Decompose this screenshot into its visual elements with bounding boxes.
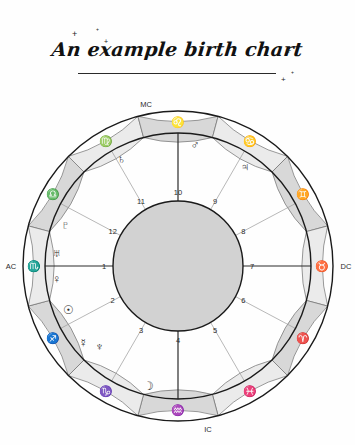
angle-label-ic: IC bbox=[204, 425, 212, 434]
angle-label-ac: AC bbox=[6, 262, 17, 271]
sign-glyph-libra: ♎ bbox=[46, 188, 60, 201]
planet-glyph-venus: ♀ bbox=[52, 272, 61, 286]
birth-chart-page: An example birth chart ++++++ ♎♍♌♋♊♉♈♓♒♑… bbox=[0, 0, 355, 445]
house-number-7: 7 bbox=[250, 262, 254, 271]
house-number-12: 12 bbox=[108, 227, 116, 236]
planet-glyph-uranus: ♅ bbox=[52, 246, 61, 260]
angle-label-dc: DC bbox=[341, 262, 352, 271]
house-number-2: 2 bbox=[111, 296, 115, 305]
planet-glyph-neptune: ♆ bbox=[95, 340, 104, 354]
house-number-4: 4 bbox=[176, 336, 180, 345]
sign-glyph-scorpio: ♏ bbox=[27, 260, 41, 273]
house-number-10: 10 bbox=[174, 188, 182, 197]
sign-glyph-aries: ♈ bbox=[296, 332, 310, 345]
house-number-5: 5 bbox=[213, 326, 217, 335]
house-number-9: 9 bbox=[213, 197, 217, 206]
sign-glyph-leo: ♌ bbox=[171, 116, 185, 129]
birth-chart-wheel: ♎♍♌♋♊♉♈♓♒♑♐♏ 123456789101112 ♇♀♅☉☿♆☽♃♂♄ … bbox=[0, 0, 355, 445]
sign-glyph-taurus: ♉ bbox=[315, 260, 329, 273]
house-number-11: 11 bbox=[137, 197, 145, 206]
house-number-8: 8 bbox=[241, 227, 245, 236]
planet-glyph-moon: ☽ bbox=[143, 379, 154, 393]
sign-glyph-capricorn: ♑ bbox=[99, 385, 113, 398]
house-number-3: 3 bbox=[139, 326, 143, 335]
planet-glyph-pluto: ♇ bbox=[61, 218, 70, 232]
sign-glyph-virgo: ♍ bbox=[99, 135, 113, 148]
planet-glyph-saturn: ♄ bbox=[117, 152, 126, 166]
wheel-inner-disc bbox=[113, 201, 243, 331]
house-number-6: 6 bbox=[241, 296, 245, 305]
sign-glyph-cancer: ♋ bbox=[243, 135, 257, 148]
angle-label-mc: MC bbox=[140, 100, 152, 109]
sign-glyph-sagittarius: ♐ bbox=[46, 332, 60, 345]
planet-glyph-mercury: ☿ bbox=[79, 336, 88, 350]
planet-glyph-jupiter: ♃ bbox=[241, 160, 250, 174]
house-number-1: 1 bbox=[102, 262, 106, 271]
sign-glyph-pisces: ♓ bbox=[243, 385, 257, 398]
planet-glyph-mars: ♂ bbox=[190, 138, 199, 152]
planet-glyph-sun: ☉ bbox=[63, 303, 74, 317]
sign-glyph-aquarius: ♒ bbox=[171, 404, 185, 417]
sign-glyph-gemini: ♊ bbox=[296, 188, 310, 201]
